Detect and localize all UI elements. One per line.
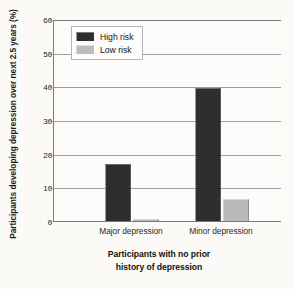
x-axis-title-line-1: Participants with no prior bbox=[30, 248, 288, 261]
y-axis-title: Participants developing depression over … bbox=[0, 0, 26, 248]
plot-area: High risk Low risk bbox=[53, 20, 281, 222]
y-axis-title-text: Participants developing depression over … bbox=[8, 9, 18, 239]
y-tick-mark-50 bbox=[49, 53, 52, 54]
x-axis-title: Participants with no prior history of de… bbox=[30, 248, 288, 274]
y-tick-mark-10 bbox=[49, 188, 52, 189]
y-axis-ticks: 60 50 40 30 20 10 0 bbox=[26, 0, 52, 289]
legend-label-high-risk: High risk bbox=[100, 32, 133, 42]
y-tick-mark-30 bbox=[49, 121, 52, 122]
y-tick-mark-0 bbox=[49, 222, 52, 223]
y-tick-mark-60 bbox=[49, 20, 52, 21]
bar-major-depression-low-risk[interactable] bbox=[133, 219, 159, 221]
legend-label-low-risk: Low risk bbox=[100, 45, 132, 55]
bar-minor-depression-low-risk[interactable] bbox=[223, 199, 249, 221]
x-axis-title-line-2: history of depression bbox=[30, 261, 288, 274]
y-tick-mark-40 bbox=[49, 87, 52, 88]
y-tick-mark-20 bbox=[49, 154, 52, 155]
bar-chart-figure: Participants developing depression over … bbox=[0, 0, 294, 289]
x-tick-label-minor-depression: Minor depression bbox=[189, 226, 252, 236]
legend-item-high-risk[interactable]: High risk bbox=[76, 30, 133, 43]
legend-swatch-low-risk-icon bbox=[76, 45, 94, 54]
bar-minor-depression-high-risk[interactable] bbox=[195, 88, 221, 221]
legend: High risk Low risk bbox=[71, 26, 143, 60]
x-tick-label-major-depression: Major depression bbox=[99, 226, 162, 236]
bar-major-depression-high-risk[interactable] bbox=[105, 164, 131, 221]
legend-item-low-risk[interactable]: Low risk bbox=[76, 43, 133, 56]
legend-swatch-high-risk-icon bbox=[76, 32, 94, 41]
